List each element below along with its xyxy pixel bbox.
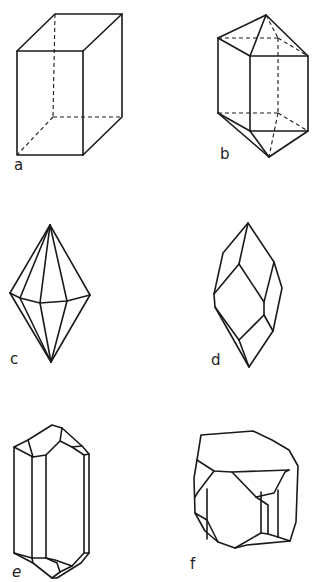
crystal-figures xyxy=(0,0,316,582)
figure-label-f: f xyxy=(190,557,195,572)
figure-d-drawing xyxy=(214,223,282,367)
figure-label-c: c xyxy=(10,352,18,367)
figure-e-drawing xyxy=(14,425,89,578)
figure-label-e: e xyxy=(12,565,21,580)
figure-a-drawing xyxy=(17,14,122,155)
figure-f-drawing xyxy=(194,431,298,548)
figure-c-drawing xyxy=(10,225,90,362)
figure-label-d: d xyxy=(211,353,221,368)
figure-label-b: b xyxy=(220,147,230,162)
figure-label-a: a xyxy=(14,158,23,173)
figure-b-drawing xyxy=(218,15,308,157)
